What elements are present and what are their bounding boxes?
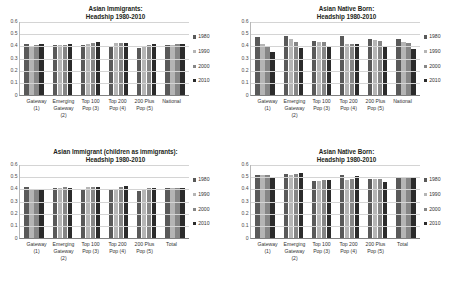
x-tick-label: National <box>158 98 185 118</box>
bar <box>265 175 269 238</box>
y-tick-label: 0.6 <box>10 162 17 167</box>
x-tick-label: Top 100Pop (3) <box>308 241 335 261</box>
legend-item: 1980 <box>424 34 460 39</box>
gridline <box>251 177 420 178</box>
gridline <box>251 165 420 166</box>
bar <box>180 44 184 95</box>
plot-area-2 <box>19 165 189 239</box>
gridline <box>251 34 420 35</box>
x-tick-label: 200 PlusPop (5) <box>131 98 158 118</box>
chart-title-3: Asian Native Born: Headship 1980-2010 <box>231 143 462 165</box>
bar <box>119 187 123 238</box>
gridline <box>20 177 189 178</box>
legend-item: 2000 <box>193 64 229 69</box>
legend-item: 1990 <box>193 49 229 54</box>
legend-label: 2010 <box>429 78 440 83</box>
bar <box>340 36 344 94</box>
legend-label: 2010 <box>429 221 440 226</box>
x-tick-label: Top 100Pop (3) <box>77 98 104 118</box>
y-axis-3: 0.60.50.40.30.20.10 <box>235 165 250 239</box>
bar <box>180 188 184 238</box>
bar <box>58 188 62 238</box>
bar <box>355 44 359 95</box>
plot-wrapper-2: 0.60.50.40.30.20.10 1980199020002010 Gat… <box>4 165 229 261</box>
x-axis-0: Gateway(1)EmergingGateway(2)Top 100Pop (… <box>23 96 185 118</box>
x-tick-label: Total <box>389 241 416 261</box>
x-axis-3: Gateway(1)EmergingGateway(2)Top 100Pop (… <box>254 239 416 261</box>
bar <box>39 44 43 95</box>
chart-panel-3: Asian Native Born: Headship 1980-2010 0.… <box>231 143 462 285</box>
bar <box>175 44 179 95</box>
gridline <box>20 83 189 84</box>
legend-3: 1980199020002010 <box>420 165 460 239</box>
bar <box>96 187 100 238</box>
bar <box>406 43 410 94</box>
y-tick-label: 0.3 <box>241 199 248 204</box>
bar <box>24 187 28 238</box>
plot-area-0 <box>19 22 189 96</box>
gridline <box>20 202 189 203</box>
legend-swatch-icon <box>193 35 196 38</box>
bar <box>86 187 90 238</box>
chart-title-line1: Asian Immigrant (children as immigrants)… <box>53 148 177 155</box>
x-tick-label: 200 PlusPop (5) <box>362 241 389 261</box>
gridline <box>251 83 420 84</box>
x-tick-label: EmergingGateway(2) <box>50 98 77 118</box>
bar <box>170 45 174 95</box>
gridline <box>20 34 189 35</box>
legend-swatch-icon <box>193 222 196 225</box>
plot-wrapper-3: 0.60.50.40.30.20.10 1980199020002010 Gat… <box>235 165 460 261</box>
bar <box>170 188 174 238</box>
bar <box>63 187 67 238</box>
bar <box>406 177 410 237</box>
bar <box>378 179 382 238</box>
bar <box>289 175 293 238</box>
legend-label: 2000 <box>429 64 440 69</box>
bar <box>124 43 128 95</box>
y-tick-label: 0.2 <box>241 212 248 217</box>
bar <box>119 43 123 95</box>
bar <box>152 44 156 95</box>
bar <box>152 188 156 238</box>
chart-panel-1: Asian Native Born: Headship 1980-2010 0.… <box>231 0 462 143</box>
chart-grid: Asian Immigrants: Headship 1980-2010 0.6… <box>0 0 462 285</box>
y-tick-label: 0.5 <box>10 175 17 180</box>
x-tick-label: Top 100Pop (3) <box>308 98 335 118</box>
gridline <box>251 202 420 203</box>
x-tick-label: Gateway(1) <box>23 241 50 261</box>
y-tick-label: 0.4 <box>241 44 248 49</box>
chart-panel-0: Asian Immigrants: Headship 1980-2010 0.6… <box>0 0 231 143</box>
bar <box>24 44 28 95</box>
legend-item: 1980 <box>193 34 229 39</box>
x-tick-label: Gateway(1) <box>254 98 281 118</box>
y-tick-label: 0 <box>246 93 249 98</box>
legend-label: 2000 <box>198 64 209 69</box>
legend-swatch-icon <box>424 178 427 181</box>
legend-item: 2000 <box>193 207 229 212</box>
bar <box>165 45 169 95</box>
gridline <box>20 214 189 215</box>
bar <box>299 173 303 238</box>
y-tick-label: 0.2 <box>10 69 17 74</box>
y-tick-label: 0.3 <box>10 199 17 204</box>
chart-title-line1: Asian Native Born: <box>319 148 374 155</box>
x-tick-label: Gateway(1) <box>254 241 281 261</box>
bar <box>294 174 298 238</box>
gridline <box>251 46 420 47</box>
chart-title-0: Asian Immigrants: Headship 1980-2010 <box>0 0 231 22</box>
legend-swatch-icon <box>193 50 196 53</box>
gridline <box>251 71 420 72</box>
x-tick-label: EmergingGateway(2) <box>281 241 308 261</box>
y-tick-label: 0.6 <box>10 19 17 24</box>
bar <box>411 177 415 238</box>
x-tick-label: Top 100Pop (3) <box>77 241 104 261</box>
legend-label: 1980 <box>198 34 209 39</box>
y-tick-label: 0.2 <box>10 212 17 217</box>
chart-title-line2: Headship 1980-2010 <box>231 13 462 21</box>
bar <box>401 42 405 94</box>
bar <box>86 44 90 95</box>
legend-item: 1980 <box>193 177 229 182</box>
legend-label: 1980 <box>429 34 440 39</box>
legend-item: 1990 <box>193 192 229 197</box>
y-tick-label: 0.1 <box>10 81 17 86</box>
